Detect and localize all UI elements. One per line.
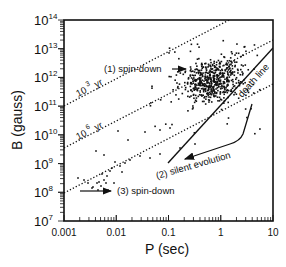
death-line: [168, 48, 273, 163]
y-tick-label: 109: [34, 156, 53, 172]
silent-evolution-arrow: [185, 104, 252, 159]
y-tick-label: 108: [34, 184, 53, 200]
age-label-1e3yr: 103yr: [73, 74, 104, 98]
x-tick-label: 0.1: [162, 227, 176, 238]
x-axis-tick-labels: 0.0010.010.1110: [51, 227, 279, 238]
spin-down-3-label: (3) spin-down: [117, 185, 175, 196]
y-tick-label: 1010: [34, 127, 58, 143]
x-axis-title: P (sec): [145, 241, 189, 257]
age-label-1e6yr: 106yr: [73, 117, 104, 141]
spin-down-1-label: (1) spin-down: [104, 63, 162, 74]
y-axis-tick-labels: 10710810910101011101210131014: [34, 12, 58, 229]
y-tick-label: 1012: [34, 69, 58, 85]
x-axis-ticks: [64, 215, 273, 221]
y-axis-ticks: [58, 20, 64, 221]
x-tick-label: 1: [218, 227, 224, 238]
x-tick-label: 0.001: [51, 227, 76, 238]
y-axis-title: B (gauss): [9, 90, 25, 150]
y-tick-label: 1011: [34, 98, 57, 114]
silent-evolution-label: (2) silent evolution: [155, 149, 232, 181]
y-tick-label: 1014: [34, 12, 58, 28]
x-tick-label: 0.01: [107, 227, 127, 238]
y-tick-label: 1013: [34, 41, 58, 57]
x-tick-label: 10: [267, 227, 279, 238]
chart: 10710810910101011101210131014 0.0010.010…: [0, 0, 286, 267]
